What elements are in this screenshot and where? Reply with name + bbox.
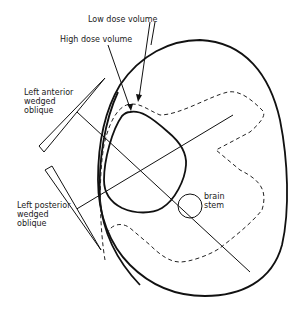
left-posterior-label-2: wedged <box>17 210 49 219</box>
low-dose-volume-contour <box>100 92 264 262</box>
treatment-plan-diagram: Low dose volume High dose volume Left an… <box>0 0 302 313</box>
high-dose-label: High dose volume <box>60 35 132 44</box>
low-dose-arrowhead <box>136 94 142 102</box>
brain-stem-label-2: stem <box>204 201 224 210</box>
low-dose-leader-2 <box>151 22 155 45</box>
left-posterior-label-3: oblique <box>17 219 47 228</box>
head-outline <box>98 40 287 296</box>
low-dose-leader-1 <box>139 22 150 98</box>
brain-stem-label-1: brain <box>204 192 225 201</box>
left-anterior-label-1: Left anterior <box>24 88 74 97</box>
left-anterior-label-2: wedged <box>24 97 56 106</box>
high-dose-arrowhead <box>127 104 133 111</box>
brain-stem-circle <box>178 194 202 218</box>
high-dose-volume-contour <box>104 112 186 213</box>
low-dose-label: Low dose volume <box>88 15 158 24</box>
left-anterior-label-3: oblique <box>24 106 54 115</box>
left-posterior-label-1: Left posterior <box>17 201 71 210</box>
